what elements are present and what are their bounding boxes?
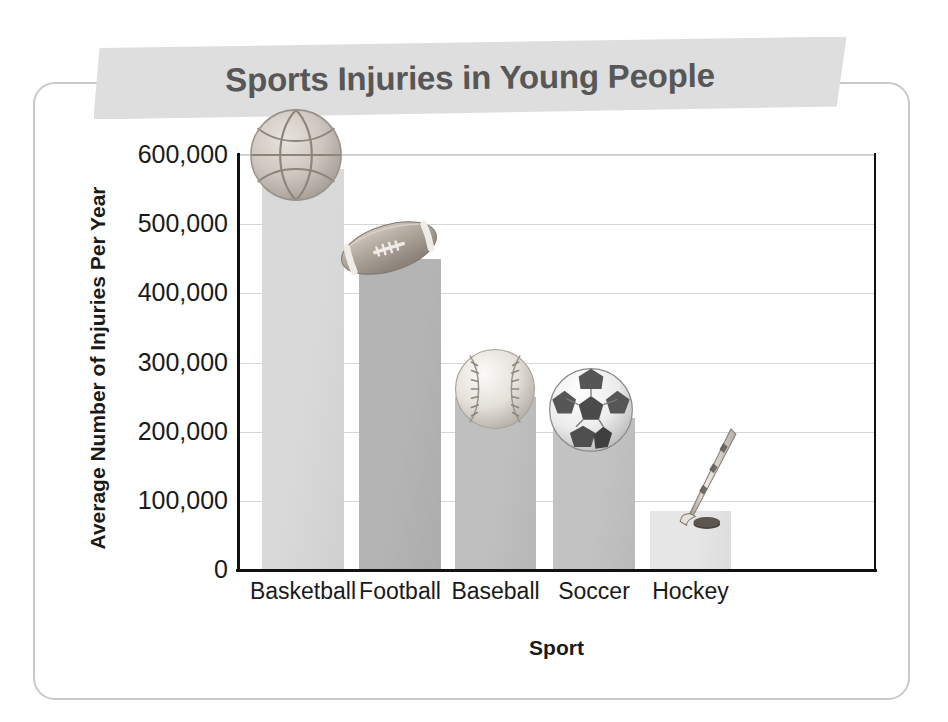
x-axis-line xyxy=(236,569,877,572)
y-axis-line xyxy=(237,153,240,572)
y-tick-label: 200,000 xyxy=(98,419,228,444)
y-axis-tick-labels: 0100,000200,000300,000400,000500,000600,… xyxy=(90,0,228,722)
chart-figure: Sports Injuries in Young People Average … xyxy=(0,0,948,722)
baseball-icon xyxy=(453,347,537,431)
hockey-stick-icon xyxy=(665,425,741,533)
x-tick-label: Hockey xyxy=(622,578,759,605)
plot-right-line xyxy=(874,153,876,572)
soccer-ball-icon xyxy=(547,366,635,454)
football-icon xyxy=(337,215,441,281)
x-axis-label: Sport xyxy=(237,636,876,660)
y-tick-label: 300,000 xyxy=(98,350,228,375)
y-tick-label: 500,000 xyxy=(98,211,228,236)
bar-football xyxy=(359,259,441,570)
y-tick-label: 0 xyxy=(98,557,228,582)
bar-basketball xyxy=(262,169,344,570)
basketball-icon xyxy=(248,107,344,203)
y-tick-label: 100,000 xyxy=(98,488,228,513)
plot-area xyxy=(237,155,876,570)
y-tick-label: 600,000 xyxy=(98,142,228,167)
y-tick-label: 400,000 xyxy=(98,280,228,305)
